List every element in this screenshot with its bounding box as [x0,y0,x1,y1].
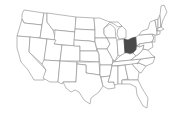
state-colorado[interactable] [60,45,80,61]
state-florida[interactable] [122,80,148,108]
state-kansas[interactable] [80,51,99,62]
state-wyoming[interactable] [54,30,75,46]
us-map [0,0,173,120]
state-connecticut[interactable] [157,31,160,35]
state-maine[interactable] [160,5,167,27]
state-washington[interactable] [22,10,44,25]
state-new-mexico[interactable] [58,61,77,84]
state-new-york[interactable] [139,20,157,35]
state-north-dakota[interactable] [75,17,95,30]
